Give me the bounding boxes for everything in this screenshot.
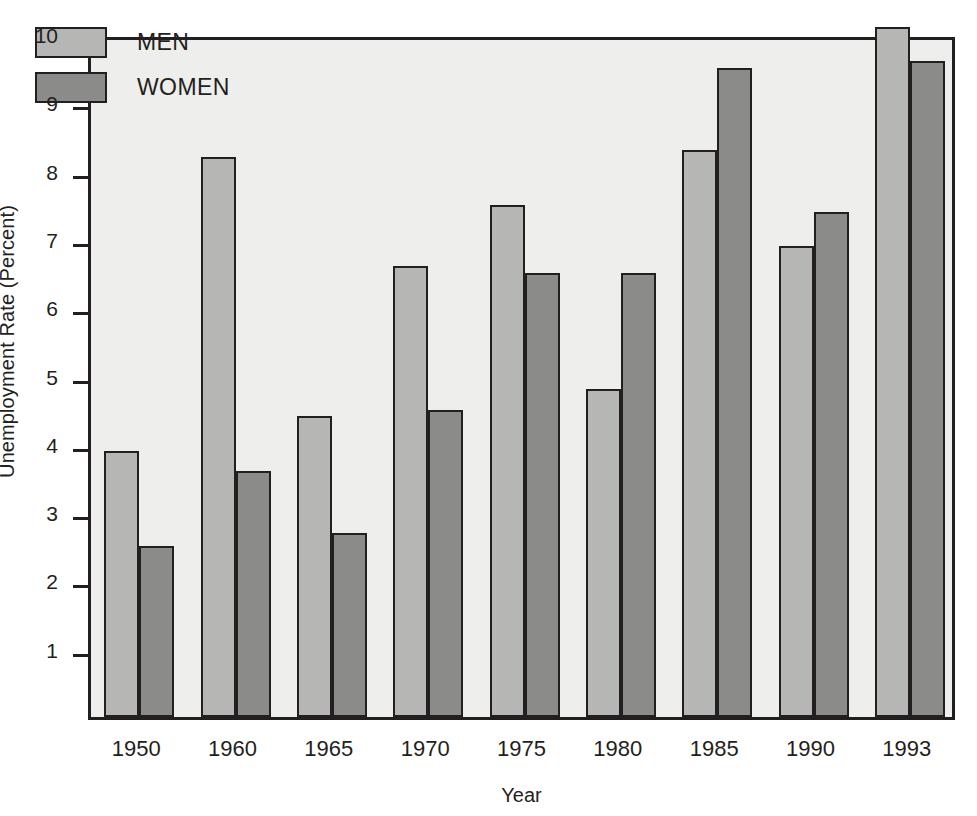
y-axis-tick	[73, 517, 91, 520]
y-axis-tick-label: 3	[18, 503, 58, 524]
y-axis-tick-label: 10	[18, 25, 58, 46]
x-axis-tick-label: 1965	[279, 738, 379, 760]
x-axis-tick-label: 1990	[761, 738, 861, 760]
bar-men-1985	[682, 150, 717, 717]
y-axis-tick-label: 5	[18, 367, 58, 388]
y-axis-tick-label: 4	[18, 435, 58, 456]
x-axis-tick-label: 1950	[86, 738, 186, 760]
plot-inner	[91, 40, 952, 717]
x-axis-tick-label: 1960	[183, 738, 283, 760]
y-axis-tick	[73, 244, 91, 247]
bar-women-1990	[814, 212, 849, 717]
y-axis-tick	[73, 312, 91, 315]
bar-men-1990	[779, 246, 814, 717]
bar-women-1960	[236, 471, 271, 717]
bar-women-1980	[621, 273, 656, 717]
bar-men-1970	[393, 266, 428, 717]
legend-item-women: WOMEN	[35, 67, 230, 107]
bar-women-1993	[910, 61, 945, 717]
bar-women-1965	[332, 533, 367, 717]
y-axis-tick-label: 7	[18, 230, 58, 251]
y-axis-tick-label: 2	[18, 571, 58, 592]
bar-men-1960	[201, 157, 236, 717]
x-axis-tick-label: 1985	[664, 738, 764, 760]
x-axis-tick-label: 1970	[375, 738, 475, 760]
legend-item-men: MEN	[35, 22, 230, 62]
y-axis-tick	[73, 585, 91, 588]
bar-women-1985	[717, 68, 752, 717]
y-axis-tick	[73, 449, 91, 452]
chart-legend: MEN WOMEN	[35, 22, 230, 112]
bar-men-1950	[104, 451, 139, 717]
legend-label-women: WOMEN	[137, 74, 230, 101]
y-axis-tick	[73, 654, 91, 657]
x-axis-title: Year	[88, 784, 955, 807]
bar-men-1993	[875, 27, 910, 717]
y-axis-tick-label: 6	[18, 298, 58, 319]
plot-area	[88, 37, 955, 720]
y-axis-tick-label: 8	[18, 162, 58, 183]
bar-men-1975	[490, 205, 525, 717]
y-axis-tick	[73, 176, 91, 179]
x-axis-tick-label: 1993	[857, 738, 957, 760]
chart-figure: Unemployment Rate (Percent) Year MEN WOM…	[0, 0, 977, 816]
y-axis-tick	[73, 381, 91, 384]
bar-women-1970	[428, 410, 463, 717]
bar-men-1965	[297, 416, 332, 717]
y-axis-tick-label: 1	[18, 640, 58, 661]
x-axis-tick-label: 1975	[472, 738, 572, 760]
x-axis-tick-label: 1980	[568, 738, 668, 760]
bar-men-1980	[586, 389, 621, 717]
bar-women-1950	[139, 546, 174, 717]
y-axis-tick-label: 9	[18, 93, 58, 114]
bar-women-1975	[525, 273, 560, 717]
legend-label-men: MEN	[137, 29, 189, 56]
